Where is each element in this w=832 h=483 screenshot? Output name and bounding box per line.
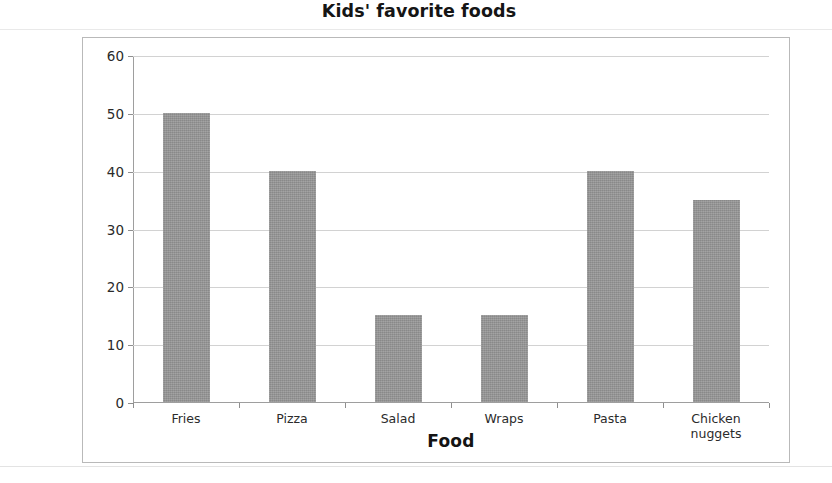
bar — [587, 171, 634, 402]
chart-title: Kids' favorite foods — [0, 1, 832, 21]
bar — [163, 113, 210, 402]
y-tick-mark — [128, 172, 133, 173]
x-tick-label: Wraps — [451, 411, 557, 426]
y-tick-label: 20 — [107, 279, 124, 295]
x-tick-mark — [345, 403, 346, 408]
gridline — [133, 230, 769, 231]
x-tick-mark — [239, 403, 240, 408]
y-tick-mark — [128, 345, 133, 346]
y-tick-mark — [128, 56, 133, 57]
x-tick-label-line: Pasta — [557, 411, 663, 426]
scan-artifact-top — [0, 29, 832, 30]
gridline — [133, 114, 769, 115]
bar — [693, 200, 740, 402]
y-tick-label: 50 — [107, 106, 124, 122]
y-tick-mark — [128, 230, 133, 231]
bar — [269, 171, 316, 402]
x-tick-label: Pizza — [239, 411, 345, 426]
gridline — [133, 172, 769, 173]
y-tick-mark — [128, 114, 133, 115]
x-axis-title: Food — [133, 431, 769, 451]
x-tick-label-line: Pizza — [239, 411, 345, 426]
x-tick-label-line: Chicken — [663, 411, 769, 426]
x-tick-label-line: Salad — [345, 411, 451, 426]
gridline — [133, 287, 769, 288]
x-tick-label-line: Wraps — [451, 411, 557, 426]
y-tick-label: 10 — [107, 337, 124, 353]
x-tick-label: Salad — [345, 411, 451, 426]
gridline — [133, 345, 769, 346]
scan-artifact-bottom — [0, 466, 832, 467]
y-tick-mark — [128, 287, 133, 288]
bar — [481, 315, 528, 402]
y-tick-label: 30 — [107, 222, 124, 238]
x-tick-mark — [451, 403, 452, 408]
chart-frame: 6050403020100 FriesPizzaSaladWrapsPastaC… — [82, 37, 790, 463]
x-tick-mark — [769, 403, 770, 408]
x-tick-mark — [663, 403, 664, 408]
x-tick-label: Fries — [133, 411, 239, 426]
x-tick-label: Pasta — [557, 411, 663, 426]
plot-area: 6050403020100 FriesPizzaSaladWrapsPastaC… — [133, 56, 769, 403]
y-tick-label: 40 — [107, 164, 124, 180]
y-tick-label: 60 — [107, 48, 124, 64]
x-tick-label-line: Fries — [133, 411, 239, 426]
y-tick-label: 0 — [115, 395, 124, 411]
bar — [375, 315, 422, 402]
x-tick-mark — [557, 403, 558, 408]
x-tick-mark — [133, 403, 134, 408]
gridline — [133, 56, 769, 57]
